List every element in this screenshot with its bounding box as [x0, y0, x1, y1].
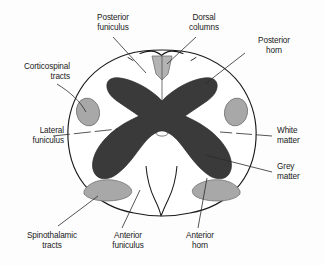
- label-anterior-horn: Anterior horn: [172, 231, 228, 250]
- label-lateral-funiculus: Lateral funiculus: [2, 126, 64, 145]
- label-grey-matter: Grey matter: [277, 162, 325, 181]
- label-posterior-horn: Posterior horn: [243, 36, 305, 55]
- spinal-cord-diagram-page: Posterior funiculus Dorsal columns Poste…: [0, 0, 325, 265]
- central-canal: [156, 131, 167, 136]
- label-spinothalamic-tracts: Spinothalamic tracts: [13, 231, 91, 250]
- label-posterior-funiculus: Posterior funiculus: [79, 13, 147, 32]
- label-anterior-funiculus: Anterior funiculus: [96, 231, 160, 250]
- label-white-matter: White matter: [277, 126, 325, 145]
- leader-spinothalamic-tracts: [58, 196, 98, 226]
- label-dorsal-columns: Dorsal columns: [174, 13, 234, 32]
- label-corticospinal-tracts: Corticospinal tracts: [2, 62, 70, 81]
